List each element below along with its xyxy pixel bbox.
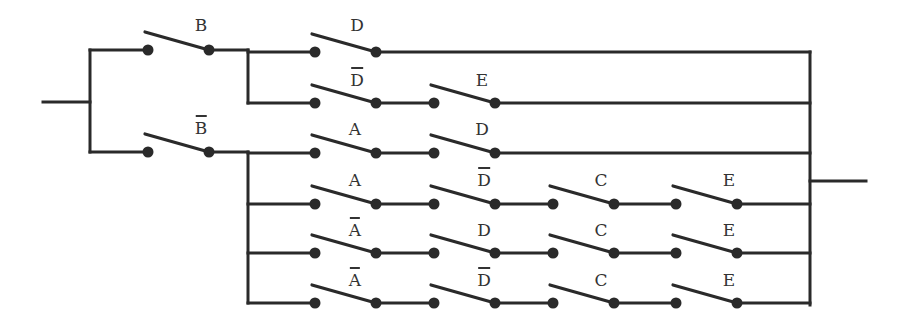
row-3-switch-c-left-contact <box>548 199 559 210</box>
switch-label-b-not: B <box>195 120 208 137</box>
row-1-switch-not-d-left-contact <box>310 98 321 109</box>
row-4-switch-e-left-contact <box>671 248 682 259</box>
switch-label-b: B <box>195 17 208 34</box>
row-3-switch-a-blade <box>312 186 376 204</box>
circuit-wiring <box>0 0 913 328</box>
switch-label-r5-d-not: D <box>477 272 491 289</box>
switch-b-left-contact <box>143 45 154 56</box>
switch-label-r3-a: A <box>349 172 361 189</box>
switch-label-r1-e: E <box>476 72 488 89</box>
switch-label-r5-a-not: A <box>349 272 361 289</box>
row-4-switch-not-a-left-contact <box>310 248 321 259</box>
row-5-switch-not-a-blade <box>312 285 376 303</box>
switch-label-r2-a: A <box>349 121 361 138</box>
row-3-switch-not-d-left-contact <box>429 199 440 210</box>
switching-circuit-diagram: B B D D E A D A D C E A D C E A D C E <box>0 0 913 328</box>
row-2-switch-d-left-contact <box>429 148 440 159</box>
switch-label-r0-d: D <box>350 17 364 34</box>
row-5-switch-not-a-left-contact <box>310 298 321 309</box>
row-2-switch-a-blade <box>312 135 376 153</box>
row-1-switch-not-d-blade <box>312 85 376 103</box>
row-1-switch-e-left-contact <box>429 98 440 109</box>
switch-label-r3-d-not: D <box>477 172 491 189</box>
switch-not-b-left-contact <box>143 147 154 158</box>
switch-label-r5-e: E <box>723 272 735 289</box>
switch-label-r2-d: D <box>475 121 489 138</box>
row-0-switch-d-blade <box>312 34 376 52</box>
row-4-switch-not-a-blade <box>312 235 376 253</box>
switch-label-r3-c: C <box>594 172 607 189</box>
switch-label-r4-d: D <box>477 222 491 239</box>
switch-label-r4-e: E <box>723 222 735 239</box>
switch-label-r1-d-not: D <box>350 72 364 89</box>
row-2-switch-a-left-contact <box>310 148 321 159</box>
row-5-switch-c-left-contact <box>548 298 559 309</box>
row-0-switch-d-left-contact <box>310 47 321 58</box>
row-3-switch-e-left-contact <box>671 199 682 210</box>
switch-label-r5-c: C <box>594 272 607 289</box>
row-5-switch-e-left-contact <box>671 298 682 309</box>
row-3-switch-a-left-contact <box>310 199 321 210</box>
row-4-switch-d-left-contact <box>429 248 440 259</box>
row-5-switch-not-d-left-contact <box>429 298 440 309</box>
switch-label-r4-c: C <box>594 222 607 239</box>
switch-label-r4-a-not: A <box>349 222 361 239</box>
row-4-switch-c-left-contact <box>548 248 559 259</box>
switch-label-r3-e: E <box>723 172 735 189</box>
